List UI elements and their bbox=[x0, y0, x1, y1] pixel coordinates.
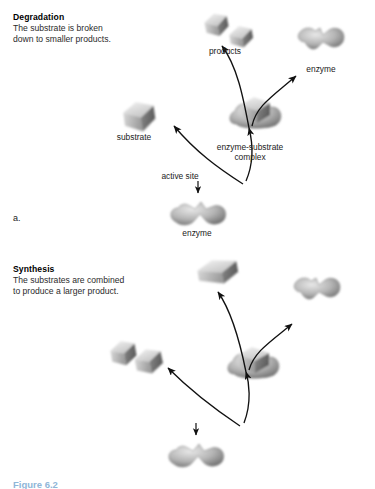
synthesis-artwork bbox=[0, 250, 375, 489]
substrate-molecule bbox=[122, 100, 157, 134]
label-complex-line1: enzyme-substrate bbox=[217, 142, 284, 152]
panel-marker-a: a. bbox=[13, 213, 21, 223]
arrow-substrates-to-enzyme bbox=[168, 368, 240, 426]
panel-synthesis: Synthesis The substrates are combined to… bbox=[0, 250, 375, 489]
products-molecules bbox=[203, 11, 254, 49]
figure-caption: Figure 6.2 bbox=[13, 479, 58, 489]
enzyme-substrate-complex-shape bbox=[230, 97, 281, 128]
enzyme-substrate-complex-shape bbox=[228, 347, 279, 378]
label-enzyme-bottom: enzyme bbox=[182, 229, 211, 239]
label-complex-line2: complex bbox=[234, 152, 265, 162]
label-complex: enzyme-substrate complex bbox=[217, 143, 284, 162]
enzyme-with-active-site-shape bbox=[169, 444, 224, 467]
product-molecule bbox=[196, 256, 240, 288]
free-enzyme-shape bbox=[298, 28, 344, 49]
label-active-site: active site bbox=[161, 172, 198, 182]
enzyme-reaction-figure: Degradation The substrate is broken down… bbox=[0, 0, 375, 489]
free-enzyme-shape bbox=[294, 278, 340, 299]
degradation-artwork bbox=[0, 0, 375, 250]
label-enzyme-free: enzyme bbox=[306, 65, 335, 75]
label-substrate: substrate bbox=[117, 133, 151, 143]
label-products: products bbox=[209, 47, 241, 57]
enzyme-with-active-site-shape bbox=[171, 202, 226, 225]
substrates-molecules bbox=[109, 339, 165, 377]
panel-degradation: Degradation The substrate is broken down… bbox=[0, 0, 375, 250]
arrow-enzyme-to-complex bbox=[244, 372, 249, 423]
